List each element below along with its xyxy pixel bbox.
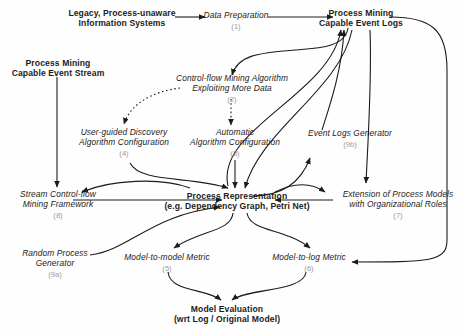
edge-loggen-to-logs	[322, 30, 344, 130]
node-process-representation-line1: Process Representation	[164, 191, 309, 201]
node-random-generator-number: (9a)	[22, 271, 88, 280]
node-event-stream-line2: Capable Event Stream	[12, 68, 105, 78]
node-data-preparation-number: (1)	[204, 23, 269, 32]
node-extension-number: (7)	[343, 212, 454, 221]
edge-procrep-to-logs	[227, 30, 341, 186]
node-m2l-number: (6)	[272, 265, 346, 274]
node-m2m-line1: Model-to-model Metric	[124, 253, 209, 263]
node-automatic-configuration[interactable]: Automatic Algorithm Configuration (3)	[190, 128, 280, 159]
node-event-logs[interactable]: Process Mining Capable Event Logs	[319, 8, 403, 28]
node-process-representation[interactable]: Process Representation (e.g. Dependency …	[164, 191, 309, 211]
node-legacy-line1: Legacy, Process-unaware	[68, 8, 175, 18]
node-model-evaluation[interactable]: Model Evaluation (wrt Log / Original Mod…	[174, 304, 280, 324]
node-event-logs-generator-number: (9b)	[308, 141, 392, 150]
node-event-stream[interactable]: Process Mining Capable Event Stream	[12, 58, 105, 78]
node-m2l-line1: Model-to-log Metric	[272, 253, 346, 263]
node-m2m-number: (5)	[124, 265, 209, 274]
node-event-logs-generator-line1: Event Logs Generator	[308, 129, 392, 139]
edge-procrep-to-m2m	[174, 213, 233, 248]
node-data-preparation-line1: Data Preparation	[204, 11, 269, 21]
node-controlflow-number: (2)	[176, 96, 288, 105]
node-automatic-number: (3)	[190, 150, 280, 159]
node-model-evaluation-line1: Model Evaluation	[174, 304, 280, 314]
node-model-evaluation-line2: (wrt Log / Original Model)	[174, 314, 280, 324]
node-legacy-line2: Information Systems	[68, 18, 175, 28]
edge-m2m-to-modeleval	[168, 272, 221, 300]
diagram-arrows	[0, 0, 464, 335]
node-automatic-line2: Algorithm Configuration	[190, 138, 280, 148]
node-process-representation-line2: (e.g. Dependency Graph, Petri Net)	[164, 201, 309, 211]
node-stream-framework-number: (8)	[20, 212, 96, 221]
node-stream-framework[interactable]: Stream Control-flow Mining Framework (8)	[20, 190, 96, 221]
node-random-process-generator[interactable]: Random Process Generator (9a)	[22, 249, 88, 280]
diagram-canvas: Legacy, Process-unaware Information Syst…	[0, 0, 464, 335]
node-extension-line2: with Organizational Roles	[343, 200, 454, 210]
node-stream-framework-line2: Mining Framework	[20, 200, 96, 210]
node-legacy[interactable]: Legacy, Process-unaware Information Syst…	[68, 8, 175, 28]
node-random-generator-line2: Generator	[22, 259, 88, 269]
edge-procrep-to-m2l	[247, 213, 310, 248]
node-model-to-log-metric[interactable]: Model-to-log Metric (6)	[272, 253, 346, 274]
node-controlflow-line2: Exploiting More Data	[176, 84, 288, 94]
edge-cfmining-to-userguided	[124, 88, 180, 124]
node-data-preparation[interactable]: Data Preparation (1)	[204, 11, 269, 32]
node-controlflow-mining-algorithm[interactable]: Control-flow Mining Algorithm Exploiting…	[176, 74, 288, 105]
node-user-guided-discovery[interactable]: User-guided Discovery Algorithm Configur…	[79, 128, 169, 159]
edge-logs-to-extension	[366, 30, 371, 183]
node-extension-process-models[interactable]: Extension of Process Models with Organiz…	[343, 190, 454, 221]
node-user-guided-number: (4)	[79, 150, 169, 159]
node-user-guided-line2: Algorithm Configuration	[79, 138, 169, 148]
edge-m2l-to-modeleval	[232, 272, 306, 300]
node-event-stream-line1: Process Mining	[12, 58, 105, 68]
node-event-logs-line2: Capable Event Logs	[319, 18, 403, 28]
node-event-logs-line1: Process Mining	[319, 8, 403, 18]
node-event-logs-generator[interactable]: Event Logs Generator (9b)	[308, 129, 392, 150]
edge-randomgen-to-procrep	[90, 207, 220, 255]
node-model-to-model-metric[interactable]: Model-to-model Metric (5)	[124, 253, 209, 274]
edge-logs-to-cfmining	[232, 28, 348, 75]
